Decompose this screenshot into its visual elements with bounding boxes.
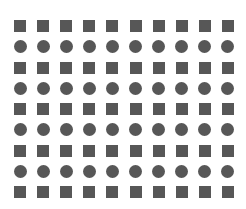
circle-marker bbox=[152, 40, 165, 53]
square-marker bbox=[153, 103, 165, 115]
circle-marker bbox=[129, 82, 142, 95]
circle-marker bbox=[106, 123, 119, 136]
square-marker bbox=[199, 62, 211, 74]
square-marker bbox=[14, 145, 26, 157]
square-marker bbox=[60, 186, 72, 198]
shape-grid-canvas bbox=[0, 0, 246, 209]
circle-marker bbox=[106, 40, 119, 53]
circle-marker bbox=[129, 165, 142, 178]
circle-marker bbox=[106, 165, 119, 178]
square-marker bbox=[106, 145, 118, 157]
square-marker bbox=[130, 62, 142, 74]
square-marker bbox=[37, 103, 49, 115]
square-marker bbox=[14, 103, 26, 115]
square-marker bbox=[222, 20, 234, 32]
square-marker bbox=[130, 145, 142, 157]
circle-marker bbox=[60, 40, 73, 53]
row-7-squares bbox=[0, 144, 246, 158]
square-marker bbox=[83, 62, 95, 74]
square-marker bbox=[106, 186, 118, 198]
square-marker bbox=[106, 62, 118, 74]
square-marker bbox=[153, 62, 165, 74]
row-9-squares bbox=[0, 185, 246, 199]
square-marker bbox=[199, 145, 211, 157]
square-marker bbox=[14, 62, 26, 74]
square-marker bbox=[37, 186, 49, 198]
circle-marker bbox=[83, 165, 96, 178]
circle-marker bbox=[83, 123, 96, 136]
circle-marker bbox=[14, 82, 27, 95]
row-6-circles bbox=[0, 123, 246, 137]
square-marker bbox=[176, 103, 188, 115]
circle-marker bbox=[106, 82, 119, 95]
square-marker bbox=[106, 103, 118, 115]
circle-marker bbox=[14, 40, 27, 53]
square-marker bbox=[199, 20, 211, 32]
square-marker bbox=[37, 20, 49, 32]
square-marker bbox=[222, 103, 234, 115]
square-marker bbox=[60, 103, 72, 115]
square-marker bbox=[153, 20, 165, 32]
row-5-squares bbox=[0, 102, 246, 116]
square-marker bbox=[222, 62, 234, 74]
square-marker bbox=[60, 20, 72, 32]
row-2-circles bbox=[0, 40, 246, 54]
circle-marker bbox=[37, 82, 50, 95]
circle-marker bbox=[221, 123, 234, 136]
circle-marker bbox=[14, 165, 27, 178]
square-marker bbox=[199, 103, 211, 115]
square-marker bbox=[222, 145, 234, 157]
square-marker bbox=[130, 186, 142, 198]
square-marker bbox=[130, 103, 142, 115]
circle-marker bbox=[198, 123, 211, 136]
square-marker bbox=[176, 62, 188, 74]
square-marker bbox=[83, 20, 95, 32]
circle-marker bbox=[83, 40, 96, 53]
square-marker bbox=[153, 145, 165, 157]
square-marker bbox=[60, 62, 72, 74]
circle-marker bbox=[14, 123, 27, 136]
circle-marker bbox=[175, 123, 188, 136]
circle-marker bbox=[60, 123, 73, 136]
square-marker bbox=[130, 20, 142, 32]
circle-marker bbox=[198, 40, 211, 53]
circle-marker bbox=[198, 165, 211, 178]
square-marker bbox=[106, 20, 118, 32]
square-marker bbox=[199, 186, 211, 198]
circle-marker bbox=[83, 82, 96, 95]
circle-marker bbox=[221, 165, 234, 178]
square-marker bbox=[37, 62, 49, 74]
square-marker bbox=[37, 145, 49, 157]
row-1-squares bbox=[0, 19, 246, 33]
circle-marker bbox=[175, 40, 188, 53]
square-marker bbox=[176, 20, 188, 32]
square-marker bbox=[83, 103, 95, 115]
circle-marker bbox=[175, 82, 188, 95]
circle-marker bbox=[221, 82, 234, 95]
square-marker bbox=[60, 145, 72, 157]
circle-marker bbox=[221, 40, 234, 53]
circle-marker bbox=[198, 82, 211, 95]
square-marker bbox=[222, 186, 234, 198]
square-marker bbox=[176, 186, 188, 198]
circle-marker bbox=[37, 40, 50, 53]
circle-marker bbox=[152, 165, 165, 178]
square-marker bbox=[14, 20, 26, 32]
square-marker bbox=[83, 186, 95, 198]
circle-marker bbox=[37, 123, 50, 136]
circle-marker bbox=[152, 82, 165, 95]
circle-marker bbox=[129, 40, 142, 53]
circle-marker bbox=[175, 165, 188, 178]
square-marker bbox=[14, 186, 26, 198]
circle-marker bbox=[129, 123, 142, 136]
square-marker bbox=[83, 145, 95, 157]
row-3-squares bbox=[0, 61, 246, 75]
row-8-circles bbox=[0, 164, 246, 178]
square-marker bbox=[153, 186, 165, 198]
circle-marker bbox=[60, 165, 73, 178]
row-4-circles bbox=[0, 81, 246, 95]
circle-marker bbox=[152, 123, 165, 136]
circle-marker bbox=[60, 82, 73, 95]
circle-marker bbox=[37, 165, 50, 178]
square-marker bbox=[176, 145, 188, 157]
